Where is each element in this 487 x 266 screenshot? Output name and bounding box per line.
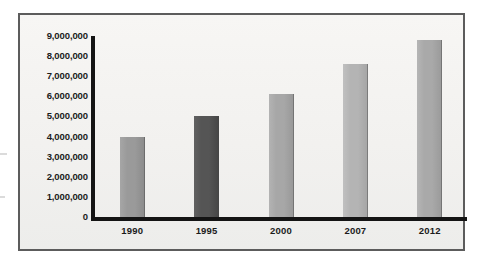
bar (120, 137, 145, 217)
bar (194, 116, 219, 217)
y-axis-tick-label: 7,000,000 (18, 71, 88, 81)
bar-fill (343, 64, 368, 217)
bar-fill (417, 40, 442, 217)
scan-artifact-mark (0, 153, 7, 155)
bar-fill (269, 94, 294, 217)
x-axis-tick-label: 2012 (395, 225, 465, 236)
x-axis-tick-label: 1990 (97, 225, 167, 236)
x-axis-tick-label: 2000 (246, 225, 316, 236)
bar (417, 40, 442, 217)
y-axis-tick-label: 3,000,000 (18, 152, 88, 162)
y-axis-tick-label: 8,000,000 (18, 51, 88, 61)
y-axis-tick-label: 1,000,000 (18, 192, 88, 202)
y-axis-tick-label: 0 (18, 212, 88, 222)
x-axis-tick-label: 2007 (320, 225, 390, 236)
y-axis-line (91, 36, 95, 219)
y-axis-tick-label: 4,000,000 (18, 132, 88, 142)
x-axis-tick-label: 1995 (172, 225, 242, 236)
chart-frame: 9,000,0008,000,0007,000,0006,000,0005,00… (18, 13, 465, 251)
x-axis-line (91, 217, 467, 221)
bar (269, 94, 294, 217)
scan-artifact-mark (0, 196, 5, 198)
chart-screenshot: 9,000,0008,000,0007,000,0006,000,0005,00… (0, 0, 487, 266)
y-axis-tick-label: 2,000,000 (18, 172, 88, 182)
y-axis-tick-label: 5,000,000 (18, 111, 88, 121)
y-axis-tick-label: 6,000,000 (18, 91, 88, 101)
y-axis-tick-label: 9,000,000 (18, 31, 88, 41)
bar-fill (120, 137, 145, 217)
bar (343, 64, 368, 217)
bar-fill (194, 116, 219, 217)
